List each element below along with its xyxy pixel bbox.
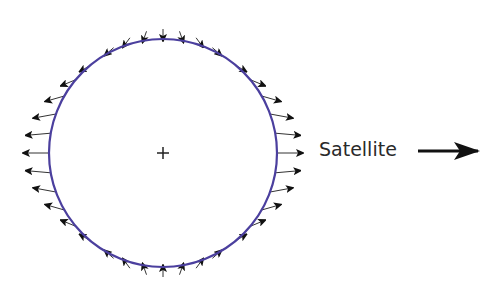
force-arrow-icon xyxy=(275,133,300,135)
force-arrow-icon xyxy=(26,133,51,135)
force-arrow-icon xyxy=(26,171,51,173)
satellite-label: Satellite xyxy=(319,138,397,160)
force-arrow-icon xyxy=(270,114,293,118)
force-arrow-icon xyxy=(270,188,293,192)
force-arrow-icon xyxy=(33,114,56,118)
force-arrow-icon xyxy=(275,171,300,173)
center-plus-icon xyxy=(157,147,169,159)
tidal-diagram xyxy=(0,0,503,289)
force-arrow-icon xyxy=(33,188,56,192)
